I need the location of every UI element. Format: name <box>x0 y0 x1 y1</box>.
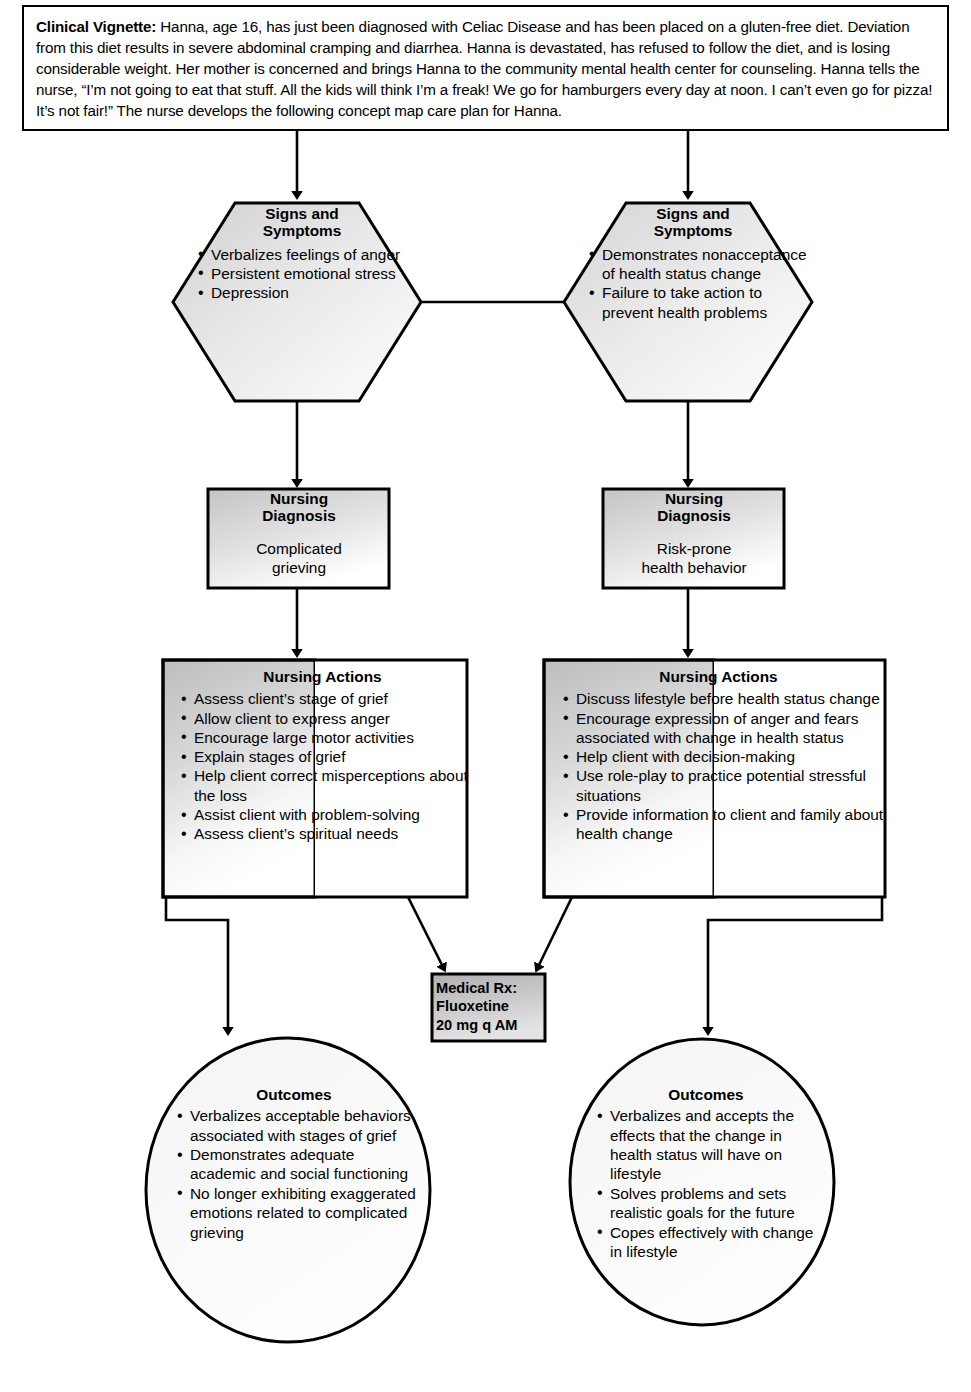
list-item: Use role-play to practice potential stre… <box>562 766 887 805</box>
nursing-actions-left-list: Assess client’s stage of grief Allow cli… <box>170 689 475 843</box>
nursing-diagnosis-left-body-line1: Complicated <box>211 539 387 558</box>
nursing-diagnosis-right-title-line2: Diagnosis <box>606 507 782 524</box>
connector-actions-right-to-outcomes-right <box>708 897 882 1030</box>
nursing-diagnosis-left-body: Complicated grieving <box>211 539 387 577</box>
nursing-diagnosis-right-body-line1: Risk-prone <box>606 539 782 558</box>
signs-symptoms-left-title-line1: Signs and <box>180 205 424 222</box>
outcomes-right-content: Outcomes Verbalizes and accepts the effe… <box>586 1086 826 1262</box>
signs-symptoms-right-title: Signs and Symptoms <box>571 205 815 240</box>
nursing-diagnosis-right-title-line1: Nursing <box>606 490 782 507</box>
nursing-diagnosis-left-body-line2: grieving <box>211 558 387 577</box>
connector-actions-right-to-medical-rx <box>538 897 572 967</box>
outcomes-left-content: Outcomes Verbalizes acceptable behaviors… <box>168 1086 420 1242</box>
list-item: Verbalizes acceptable behaviors associat… <box>176 1106 420 1145</box>
list-item: No longer exhibiting exaggerated emotion… <box>176 1184 420 1242</box>
signs-symptoms-left-content: Signs and Symptoms Verbalizes feelings o… <box>180 205 424 303</box>
list-item: Encourage large motor activities <box>180 728 475 747</box>
list-item: Verbalizes and accepts the effects that … <box>596 1106 826 1184</box>
medical-rx-line2: Fluoxetine <box>436 997 544 1015</box>
list-item: Persistent emotional stress <box>197 264 424 283</box>
list-item: Discuss lifestyle before health status c… <box>562 689 887 708</box>
nursing-diagnosis-left-title-line1: Nursing <box>211 490 387 507</box>
signs-symptoms-left-title: Signs and Symptoms <box>180 205 424 240</box>
medical-rx-line3: 20 mg q AM <box>436 1016 544 1034</box>
outcomes-left-list: Verbalizes acceptable behaviors associat… <box>168 1106 420 1242</box>
signs-symptoms-left-list: Verbalizes feelings of anger Persistent … <box>180 245 424 303</box>
list-item: Copes effectively with change in lifesty… <box>596 1223 826 1262</box>
signs-symptoms-right-title-line1: Signs and <box>571 205 815 222</box>
clinical-vignette-box: Clinical Vignette: Hanna, age 16, has ju… <box>22 5 949 131</box>
outcomes-left-title: Outcomes <box>168 1086 420 1103</box>
list-item: Help client with decision-making <box>562 747 887 766</box>
connector-actions-left-to-outcomes-left <box>166 897 228 1030</box>
medical-rx-line1: Medical Rx: <box>436 979 544 997</box>
medical-rx-content: Medical Rx: Fluoxetine 20 mg q AM <box>436 979 544 1034</box>
nursing-actions-right-title: Nursing Actions <box>550 668 887 685</box>
list-item: Demonstrates adequate academic and socia… <box>176 1145 420 1184</box>
outcomes-right-list: Verbalizes and accepts the effects that … <box>586 1106 826 1261</box>
list-item: Encourage expression of anger and fears … <box>562 709 887 748</box>
outcomes-right-title: Outcomes <box>586 1086 826 1103</box>
list-item: Demonstrates nonacceptance of health sta… <box>588 245 815 284</box>
connector-actions-left-to-medical-rx <box>408 897 443 967</box>
list-item: Solves problems and sets realistic goals… <box>596 1184 826 1223</box>
nursing-diagnosis-left-content: Nursing Diagnosis Complicated grieving <box>211 490 387 577</box>
list-item: Provide information to client and family… <box>562 805 887 844</box>
nursing-actions-left-title: Nursing Actions <box>170 668 475 685</box>
list-item: Help client correct misperceptions about… <box>180 766 475 805</box>
list-item: Depression <box>197 283 424 302</box>
signs-symptoms-right-content: Signs and Symptoms Demonstrates nonaccep… <box>571 205 815 322</box>
list-item: Assist client with problem-solving <box>180 805 475 824</box>
nursing-actions-left-content: Nursing Actions Assess client’s stage of… <box>170 668 475 844</box>
clinical-vignette-text: Clinical Vignette: Hanna, age 16, has ju… <box>36 16 935 121</box>
nursing-diagnosis-right-body-line2: health behavior <box>606 558 782 577</box>
list-item: Assess client’s stage of grief <box>180 689 475 708</box>
list-item: Explain stages of grief <box>180 747 475 766</box>
list-item: Allow client to express anger <box>180 709 475 728</box>
nursing-diagnosis-left-title: Nursing Diagnosis <box>211 490 387 525</box>
clinical-vignette-label: Clinical Vignette: <box>36 18 156 35</box>
list-item: Failure to take action to prevent health… <box>588 283 815 322</box>
signs-symptoms-left-title-line2: Symptoms <box>180 222 424 239</box>
nursing-actions-right-content: Nursing Actions Discuss lifestyle before… <box>550 668 887 844</box>
nursing-diagnosis-right-content: Nursing Diagnosis Risk-prone health beha… <box>606 490 782 577</box>
nursing-diagnosis-right-body: Risk-prone health behavior <box>606 539 782 577</box>
list-item: Verbalizes feelings of anger <box>197 245 424 264</box>
clinical-vignette-body: Hanna, age 16, has just been diagnosed w… <box>36 18 932 119</box>
signs-symptoms-right-list: Demonstrates nonacceptance of health sta… <box>571 245 815 323</box>
signs-symptoms-right-title-line2: Symptoms <box>571 222 815 239</box>
nursing-diagnosis-right-title: Nursing Diagnosis <box>606 490 782 525</box>
list-item: Assess client’s spiritual needs <box>180 824 475 843</box>
nursing-diagnosis-left-title-line2: Diagnosis <box>211 507 387 524</box>
nursing-actions-right-list: Discuss lifestyle before health status c… <box>550 689 887 843</box>
concept-map-diagram: Clinical Vignette: Hanna, age 16, has ju… <box>0 0 971 1392</box>
